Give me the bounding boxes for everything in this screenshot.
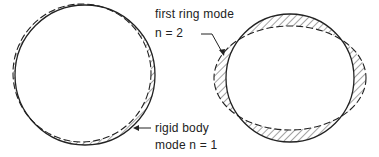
first-ring-mode-label: first ring mode	[155, 8, 234, 20]
leader-line-right	[201, 34, 222, 52]
ring-mode-n-label: n = 2	[155, 27, 183, 39]
rigid-body-label: rigid body	[155, 122, 209, 134]
rigid-body-mode-figure	[13, 4, 155, 145]
first-ring-mode-figure	[201, 14, 366, 142]
rigid-body-n-label: mode n = 1	[155, 139, 217, 151]
